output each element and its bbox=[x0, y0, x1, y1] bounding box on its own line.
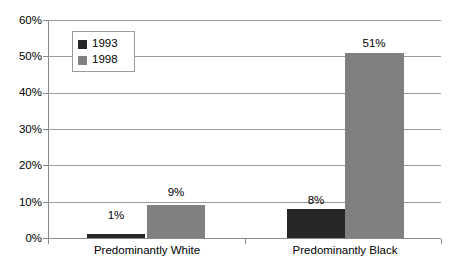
y-tick-label-40: 40% bbox=[2, 87, 42, 99]
bar-1998-predominantly-white bbox=[147, 205, 205, 238]
y-tick-label-50: 50% bbox=[2, 51, 42, 63]
bar-1993-predominantly-black bbox=[287, 209, 345, 238]
x-tick-mark-middle bbox=[245, 239, 246, 244]
y-tick-label-0: 0% bbox=[2, 233, 42, 245]
data-label-1993-white: 1% bbox=[108, 210, 125, 222]
legend-label-1993: 1993 bbox=[92, 38, 118, 50]
y-tick-label-20: 20% bbox=[2, 160, 42, 172]
y-tick-label-60: 60% bbox=[2, 15, 42, 27]
x-tick-mark-left bbox=[48, 239, 49, 244]
data-label-1998-black: 51% bbox=[362, 38, 385, 50]
category-label-predominantly-black: Predominantly Black bbox=[293, 245, 398, 257]
data-label-1998-white: 9% bbox=[168, 187, 185, 199]
x-tick-mark-right bbox=[441, 239, 442, 244]
y-tick-label-30: 30% bbox=[2, 124, 42, 136]
bar-1993-predominantly-white bbox=[87, 234, 145, 238]
legend-swatch-icon-1998 bbox=[78, 56, 87, 65]
bar-chart: 60% 50% 40% 30% 20% 10% 0% 1% 9% 8% 51% … bbox=[0, 0, 454, 273]
legend-item-1998: 1998 bbox=[78, 52, 129, 68]
legend-swatch-icon-1993 bbox=[78, 40, 87, 49]
bar-1998-predominantly-black bbox=[345, 53, 404, 238]
legend: 1993 1998 bbox=[72, 31, 135, 72]
legend-item-1993: 1993 bbox=[78, 36, 129, 52]
legend-label-1998: 1998 bbox=[92, 54, 118, 66]
data-label-1993-black: 8% bbox=[308, 195, 325, 207]
category-label-predominantly-white: Predominantly White bbox=[94, 245, 200, 257]
y-tick-label-10: 10% bbox=[2, 197, 42, 209]
gridline-60 bbox=[48, 20, 441, 21]
